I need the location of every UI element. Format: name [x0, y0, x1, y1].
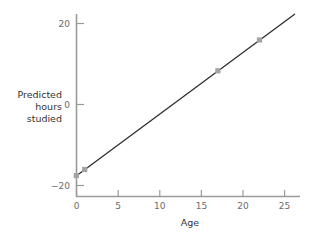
chart-figure: 20 0 −20 0 5 10 15 20 25 Age Predicted h…	[0, 0, 313, 234]
y-tick-label-0: 0	[64, 100, 70, 110]
scatter-plot-canvas: 20 0 −20 0 5 10 15 20 25 Age Predicted h…	[0, 0, 313, 234]
y-tick-label-neg20: −20	[51, 181, 70, 191]
y-axis-title-line-1: Predicted	[17, 89, 62, 100]
data-point-marker	[215, 68, 220, 73]
x-tick-label-25: 25	[279, 201, 290, 211]
y-tick-label-20: 20	[59, 19, 71, 29]
x-axis-title: Age	[181, 217, 200, 228]
x-tick-label-15: 15	[196, 201, 207, 211]
x-tick-label-10: 10	[154, 201, 166, 211]
y-axis-title-line-3: studied	[27, 113, 62, 124]
x-tick-label-20: 20	[237, 201, 249, 211]
x-tick-label-5: 5	[115, 201, 121, 211]
data-point-marker	[82, 167, 87, 172]
data-point-marker	[257, 37, 262, 42]
data-point-marker	[74, 173, 79, 178]
x-tick-label-0: 0	[74, 201, 80, 211]
y-axis-title-line-2: hours	[35, 101, 62, 112]
